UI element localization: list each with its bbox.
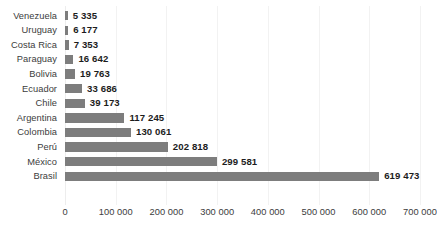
x-tick-label: 100 000 bbox=[99, 205, 133, 219]
bar-row: Perú202 818 bbox=[0, 140, 436, 155]
category-label: Ecuador bbox=[0, 82, 57, 97]
category-label: Chile bbox=[0, 96, 57, 111]
bar bbox=[65, 55, 73, 64]
bar bbox=[65, 128, 131, 137]
bar-value-label: 16 642 bbox=[78, 52, 108, 67]
bar bbox=[65, 172, 379, 181]
category-label: Colombia bbox=[0, 125, 57, 140]
bar-value-label: 33 686 bbox=[87, 82, 117, 97]
category-label: Brasil bbox=[0, 169, 57, 184]
bar-value-label: 117 245 bbox=[129, 111, 164, 126]
category-label: Venezuela bbox=[0, 9, 57, 24]
bar-row: Brasil619 473 bbox=[0, 169, 436, 184]
bar-row: México299 581 bbox=[0, 155, 436, 170]
bar-row: Venezuela5 335 bbox=[0, 9, 436, 24]
x-axis: 0100 000200 000300 000400 000500 000600 … bbox=[0, 205, 436, 225]
category-label: Perú bbox=[0, 140, 57, 155]
bar bbox=[65, 157, 217, 166]
x-tick-label: 400 000 bbox=[251, 205, 285, 219]
bar-row: Bolivia19 763 bbox=[0, 67, 436, 82]
bar bbox=[65, 11, 68, 20]
category-label: Argentina bbox=[0, 111, 57, 126]
category-label: Paraguay bbox=[0, 52, 57, 67]
bar bbox=[65, 69, 75, 78]
bar-value-label: 39 173 bbox=[90, 96, 120, 111]
bar bbox=[65, 26, 68, 35]
bar-row: Chile39 173 bbox=[0, 96, 436, 111]
bar-row: Paraguay16 642 bbox=[0, 52, 436, 67]
chart-plot-area: Venezuela5 335Uruguay6 177Costa Rica7 35… bbox=[0, 0, 436, 205]
bar-value-label: 130 061 bbox=[136, 125, 171, 140]
bar-value-label: 299 581 bbox=[222, 155, 257, 170]
bar-value-label: 619 473 bbox=[384, 169, 419, 184]
bar-row: Uruguay6 177 bbox=[0, 23, 436, 38]
bar-value-label: 6 177 bbox=[73, 23, 98, 38]
x-tick-label: 600 000 bbox=[352, 205, 386, 219]
x-tick-label: 0 bbox=[62, 205, 67, 219]
category-label: Bolivia bbox=[0, 67, 57, 82]
bar bbox=[65, 99, 85, 108]
bar-value-label: 5 335 bbox=[73, 9, 98, 24]
bar bbox=[65, 84, 82, 93]
x-tick-label: 700 000 bbox=[403, 205, 437, 219]
bar bbox=[65, 40, 69, 49]
bar-value-label: 202 818 bbox=[173, 140, 208, 155]
category-label: México bbox=[0, 155, 57, 170]
bar-row: Costa Rica7 353 bbox=[0, 38, 436, 53]
bar-row: Colombia130 061 bbox=[0, 125, 436, 140]
bar-row: Argentina117 245 bbox=[0, 111, 436, 126]
x-tick-label: 200 000 bbox=[149, 205, 183, 219]
x-tick-label: 500 000 bbox=[302, 205, 336, 219]
category-label: Costa Rica bbox=[0, 38, 57, 53]
bar-value-label: 7 353 bbox=[74, 38, 99, 53]
bar bbox=[65, 142, 168, 151]
bar-row: Ecuador33 686 bbox=[0, 82, 436, 97]
bar-value-label: 19 763 bbox=[80, 67, 110, 82]
x-tick-label: 300 000 bbox=[200, 205, 234, 219]
bar bbox=[65, 113, 124, 122]
category-label: Uruguay bbox=[0, 23, 57, 38]
